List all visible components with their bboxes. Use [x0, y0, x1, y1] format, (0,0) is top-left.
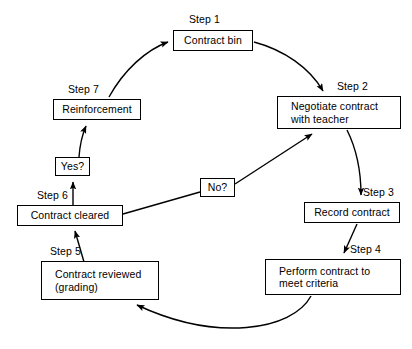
node-yes-decision[interactable]: Yes?: [55, 157, 90, 176]
node-record-contract[interactable]: Record contract: [304, 202, 400, 223]
edge-no-to-negotiate: [235, 134, 312, 184]
node-perform-contract[interactable]: Perform contract to meet criteria: [265, 259, 401, 295]
node-contract-bin[interactable]: Contract bin: [173, 30, 253, 51]
edge-yes-to-reinforcement: [79, 126, 86, 157]
step-label-4: Step 4: [350, 243, 381, 255]
flowchart-diagram: Step 1 Step 2 Step 3 Step 4 Step 5 Step …: [0, 0, 412, 349]
edge-perform-to-reviewed: [137, 296, 311, 328]
node-reinforcement[interactable]: Reinforcement: [53, 99, 141, 120]
edge-cleared-to-no: [123, 192, 200, 214]
node-negotiate-contract-label: Negotiate contract with teacher: [291, 100, 378, 125]
step-label-3: Step 3: [363, 186, 394, 198]
node-yes-decision-label: Yes?: [61, 160, 84, 172]
node-contract-cleared[interactable]: Contract cleared: [17, 205, 123, 226]
node-record-contract-label: Record contract: [314, 206, 390, 218]
node-no-decision[interactable]: No?: [200, 178, 235, 197]
node-reinforcement-label: Reinforcement: [62, 103, 132, 115]
node-contract-reviewed-label: Contract reviewed (grading): [55, 268, 141, 293]
edge-reinforcement-to-bin: [109, 42, 168, 97]
step-label-5: Step 5: [50, 245, 81, 257]
node-contract-cleared-label: Contract cleared: [31, 209, 110, 221]
node-negotiate-contract[interactable]: Negotiate contract with teacher: [277, 96, 401, 129]
edge-bin-to-negotiate: [254, 42, 323, 91]
node-perform-contract-label: Perform contract to meet criteria: [279, 265, 370, 290]
step-label-1: Step 1: [189, 13, 220, 25]
edge-negotiate-to-record: [347, 130, 361, 195]
node-contract-reviewed[interactable]: Contract reviewed (grading): [41, 261, 159, 300]
step-label-6: Step 6: [37, 189, 68, 201]
node-contract-bin-label: Contract bin: [184, 34, 242, 46]
step-label-7: Step 7: [68, 83, 99, 95]
node-no-decision-label: No?: [208, 181, 228, 193]
step-label-2: Step 2: [337, 80, 368, 92]
